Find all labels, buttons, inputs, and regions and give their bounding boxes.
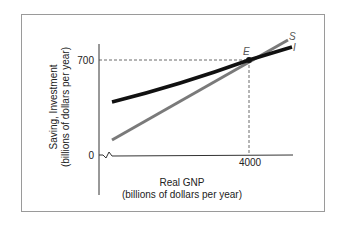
y-axis-label: Saving, Investment — [48, 64, 59, 149]
y-tick-0: 0 — [88, 150, 94, 161]
chart-svg: E S I 700 0 4000 Real GNP (billions of d… — [0, 0, 340, 229]
x-axis-label-sub: (billions of dollars per year) — [122, 189, 242, 200]
series-i-line — [112, 47, 292, 102]
series-s-label: S — [289, 31, 296, 42]
x-axis — [99, 152, 293, 158]
equilibrium-point — [246, 57, 252, 63]
point-e-label: E — [243, 46, 250, 57]
series-i-label: I — [293, 42, 296, 53]
y-axis-label-sub: (billions of dollars per year) — [60, 47, 71, 167]
x-axis-label: Real GNP — [159, 177, 204, 188]
y-tick-700: 700 — [77, 55, 94, 66]
x-tick-4000: 4000 — [239, 157, 262, 168]
